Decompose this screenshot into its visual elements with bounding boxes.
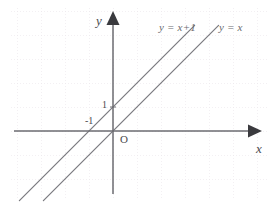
curve-label-y-equals-x: y = x	[219, 22, 243, 33]
y-axis-label: y	[96, 14, 102, 27]
tick-label-y-one: 1	[102, 100, 107, 110]
background-grid	[10, 8, 268, 198]
tick-label-x-minus-one: -1	[85, 116, 93, 126]
origin-label: O	[120, 134, 128, 145]
curve-label-y-equals-x-plus-1: y = x+1	[159, 22, 196, 33]
graph-figure: y x O 1 -1 y = x+1 y = x	[0, 0, 278, 204]
x-axis-label: x	[256, 142, 262, 155]
